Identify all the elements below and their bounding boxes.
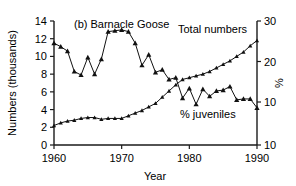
- left-tick-label: 8: [41, 68, 47, 80]
- data-point-marker: [200, 87, 205, 92]
- x-tick-label: 1990: [245, 152, 269, 164]
- y2-axis-label: %: [273, 78, 285, 88]
- data-point-marker: [146, 52, 151, 57]
- x-tick-label: 1980: [177, 152, 201, 164]
- left-tick-label: 6: [41, 86, 47, 98]
- right-tick-label: 30: [264, 15, 276, 27]
- data-point-marker: [92, 72, 97, 77]
- data-point-marker: [160, 67, 165, 72]
- chart-title: (b) Barnacle Goose: [74, 18, 169, 30]
- data-point-marker: [255, 38, 259, 42]
- series-percent-juveniles: [51, 27, 259, 110]
- data-point-marker: [51, 41, 56, 46]
- data-point-marker: [85, 55, 90, 60]
- right-tick-label-bottom: 10: [264, 139, 276, 151]
- figure: 02468101214 30201010 1960197019801990 (b…: [0, 0, 296, 186]
- x-axis-label: Year: [144, 170, 167, 182]
- data-point-marker: [72, 69, 77, 74]
- data-point-marker: [194, 102, 199, 107]
- left-tick-label: 10: [35, 50, 47, 62]
- barnacle-goose-chart: 02468101214 30201010 1960197019801990 (b…: [0, 0, 296, 186]
- data-point-marker: [58, 44, 63, 49]
- right-tick-label: 20: [264, 56, 276, 68]
- right-tick-label: 10: [264, 96, 276, 108]
- annotation-total-numbers: Total numbers: [178, 23, 248, 35]
- data-point-marker: [78, 72, 83, 77]
- left-tick-label: 14: [35, 15, 47, 27]
- y-axis-label: Numbers (thousands): [6, 30, 18, 136]
- x-tick-label: 1960: [42, 152, 66, 164]
- axes-group: [54, 21, 257, 145]
- x-tick-label: 1970: [109, 152, 133, 164]
- data-point-marker: [65, 49, 70, 54]
- data-point-marker: [139, 63, 144, 68]
- data-point-marker: [187, 86, 192, 91]
- x-axis-tick-labels: 1960197019801990: [42, 152, 269, 164]
- annotation-percent-juveniles: % juveniles: [180, 108, 236, 120]
- data-point-marker: [173, 75, 178, 80]
- left-tick-label: 0: [41, 139, 47, 151]
- left-tick-label: 4: [41, 104, 47, 116]
- left-axis-tick-labels: 02468101214: [35, 15, 47, 151]
- data-point-marker: [227, 84, 232, 89]
- data-point-marker: [147, 105, 151, 109]
- series-polyline: [54, 30, 257, 108]
- left-tick-label: 2: [41, 121, 47, 133]
- data-point-marker: [133, 41, 138, 46]
- left-tick-label: 12: [35, 33, 47, 45]
- data-point-marker: [99, 56, 104, 61]
